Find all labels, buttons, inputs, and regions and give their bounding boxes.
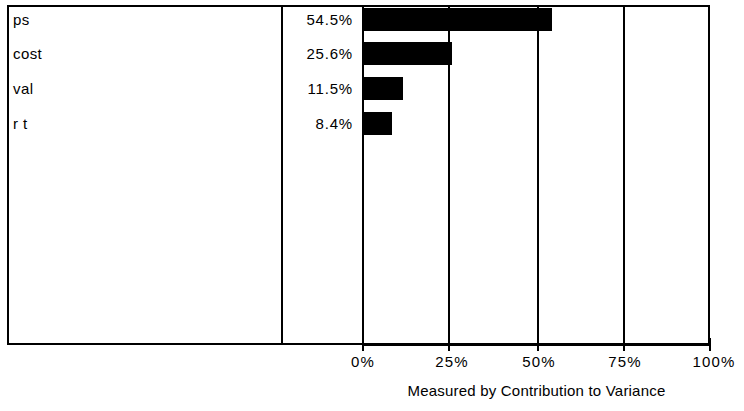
- tick-75-percent: [623, 338, 625, 351]
- label-column-divider: [281, 5, 283, 345]
- ticklabel-25-percent: 25%: [417, 353, 487, 370]
- value-label-ps: 54.5%: [285, 8, 353, 31]
- value-label-column: 54.5% 25.6% 11.5% 8.4%: [285, 5, 353, 345]
- tick-0-percent: [362, 338, 364, 351]
- tick-100-percent: [709, 338, 711, 351]
- category-label-val: val: [13, 77, 275, 100]
- pareto-chart: ps cost val r t 54.5% 25.6% 11.5% 8.4% 0…: [0, 0, 744, 411]
- ticklabel-75-percent: 75%: [590, 353, 660, 370]
- ticklabel-50-percent: 50%: [504, 353, 574, 370]
- value-label-val: 11.5%: [285, 77, 353, 100]
- category-label-cost: cost: [13, 42, 275, 65]
- tick-50-percent: [537, 338, 539, 351]
- bar-cost: [363, 42, 452, 65]
- bar-rt: [363, 112, 392, 135]
- x-axis-caption: Measured by Contribution to Variance: [363, 382, 710, 399]
- plot-area: [363, 5, 710, 345]
- bar-val: [363, 77, 403, 100]
- value-label-cost: 25.6%: [285, 42, 353, 65]
- bar-ps: [363, 8, 552, 31]
- category-label-ps: ps: [13, 8, 275, 31]
- category-label-column: ps cost val r t: [13, 5, 275, 345]
- tick-25-percent: [448, 338, 450, 351]
- value-label-rt: 8.4%: [285, 112, 353, 135]
- ticklabel-0-percent: 0%: [328, 353, 398, 370]
- ticklabel-100-percent: 100%: [679, 353, 744, 370]
- category-label-rt: r t: [13, 112, 275, 135]
